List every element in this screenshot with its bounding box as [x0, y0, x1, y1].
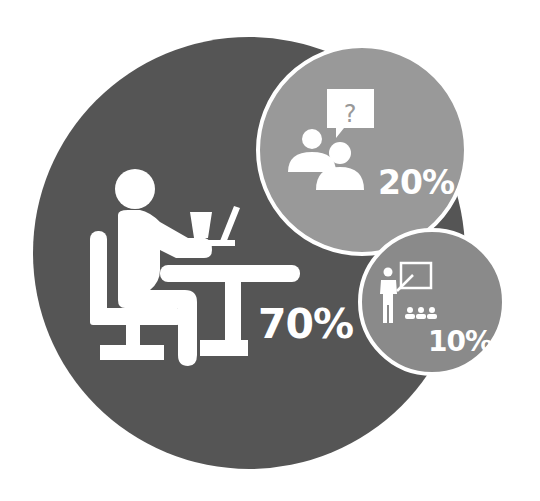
teacher-presentation-audience-icon	[0, 0, 540, 501]
percent-10-label: 10%	[428, 325, 492, 358]
